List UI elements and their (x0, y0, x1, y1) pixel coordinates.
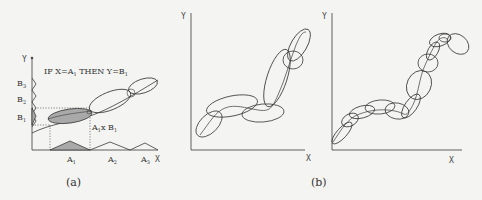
label-a1: A1 (66, 155, 76, 165)
x-membership-functions (90, 142, 158, 150)
ellipse (283, 25, 315, 64)
rule-label: IF X=A1 THEN Y=B1 (44, 67, 128, 77)
ellipse (364, 99, 395, 116)
ellipse (191, 106, 226, 141)
x-axis-label-b-right: X (449, 156, 454, 165)
label-a3: A3 (140, 155, 150, 165)
label-b2: B2 (17, 95, 26, 105)
x-axis-label-a: X (155, 155, 160, 164)
ellipse (424, 40, 443, 62)
ellipse (258, 46, 296, 109)
panel-b-right-plot (329, 13, 473, 150)
label-b3: B3 (17, 79, 26, 89)
patch-a3xb3 (127, 75, 160, 98)
function-curve (200, 32, 306, 135)
y-axis-label-b-left: Y (181, 12, 186, 21)
ellipse (241, 102, 284, 124)
ellipse (348, 103, 376, 121)
x-axis-label-b-left: X (306, 154, 311, 163)
patch-a2xb2 (86, 84, 134, 117)
figure: Y IF X=A1 THEN Y=B1 B3 B2 B1 A1 A2 A3 X … (0, 0, 482, 200)
ellipse (398, 91, 424, 121)
y-axis-label-b-right: Y (322, 12, 327, 21)
caption-b: (b) (311, 176, 327, 189)
a1-shaded-set (50, 141, 90, 150)
caption-a: (a) (66, 176, 81, 189)
label-b1: B1 (17, 113, 26, 123)
shaded-patch-a1xb1 (47, 106, 93, 126)
panel-b-left-plot (191, 13, 315, 150)
y-axis-label-a: Y (22, 55, 27, 64)
label-a2: A2 (107, 155, 117, 165)
product-label: A1x B1 (91, 123, 117, 133)
